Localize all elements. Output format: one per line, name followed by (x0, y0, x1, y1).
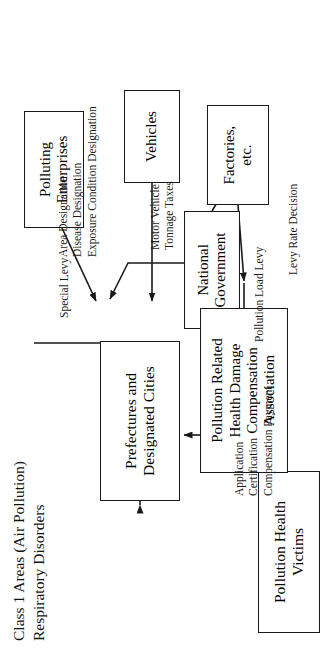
node-vehicles: Vehicles (124, 90, 180, 183)
node-prefectures-label: Prefectures and Designated Cities (122, 366, 158, 476)
node-national-government-label: National Government (195, 233, 230, 308)
node-victims-label: Pollution Health Victims (271, 476, 307, 628)
edge-label-levy-rate-decision: Levy Rate Decision (286, 184, 300, 275)
edge-government-to-prefectures (110, 263, 184, 299)
rotated-figure-container: Class 1 Areas (Air Pollution) Respirator… (0, 0, 336, 653)
node-vehicles-label: Vehicles (143, 111, 160, 162)
edge-label-special-levy: Special Levy (57, 258, 71, 318)
edge-label-designations: Area Designation Disease Designation Exp… (56, 106, 99, 257)
node-factories-label: Factories, etc. (221, 126, 256, 185)
edge-label-motor-vehicle-tonnage-taxes: Motor Vehicle Tonnage Taxes (148, 181, 177, 250)
diagram-canvas: Class 1 Areas (Air Pollution) Respirator… (0, 0, 336, 653)
edge-label-application-certification-compensation: Application Certification Compensation P… (232, 386, 275, 496)
node-prefectures-and-designated-cities: Prefectures and Designated Cities (100, 341, 180, 501)
edge-label-pollution-load-levy: Pollution Load Levy (252, 247, 266, 342)
node-factories: Factories, etc. (207, 105, 269, 205)
